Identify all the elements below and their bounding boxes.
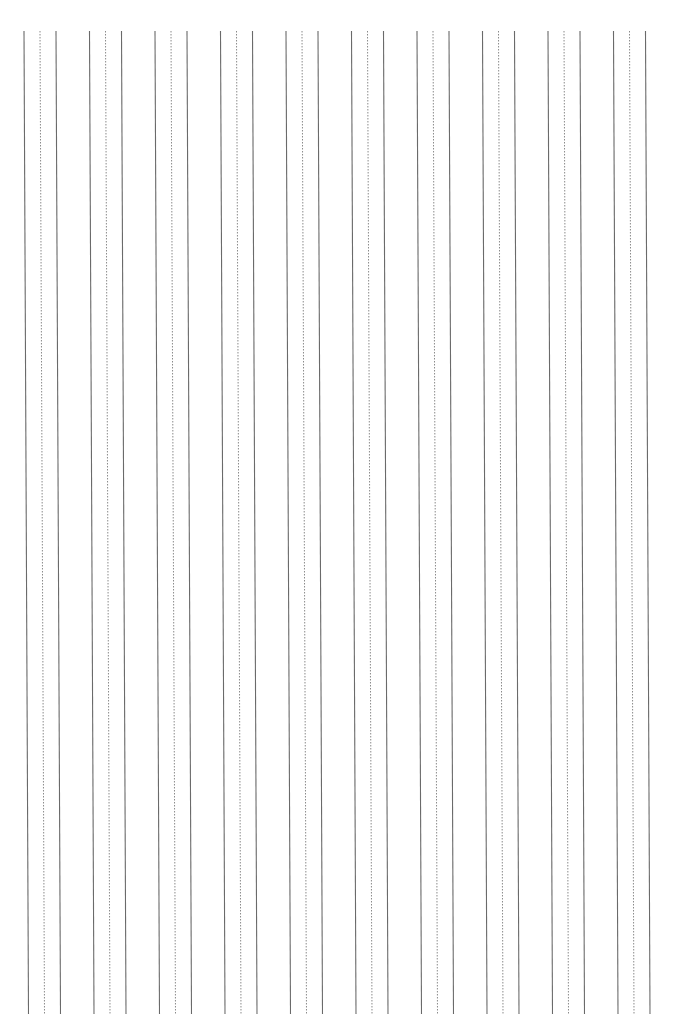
solid-guide-line <box>384 31 389 1014</box>
solid-guide-line <box>548 31 553 1014</box>
column-group <box>548 31 585 1014</box>
dotted-guide-line <box>499 31 504 1014</box>
dotted-guide-line <box>433 31 438 1014</box>
solid-guide-line <box>221 31 226 1014</box>
dotted-guide-line <box>106 31 111 1014</box>
dotted-guide-line <box>237 31 242 1014</box>
dotted-guide-line <box>564 31 569 1014</box>
solid-guide-line <box>483 31 488 1014</box>
dotted-guide-line <box>171 31 176 1014</box>
dotted-guide-line <box>40 31 45 1014</box>
solid-guide-line <box>646 31 651 1014</box>
lined-paper-sheet <box>0 0 677 1014</box>
column-group <box>155 31 192 1014</box>
column-group <box>286 31 323 1014</box>
column-group <box>24 31 61 1014</box>
dotted-guide-line <box>368 31 373 1014</box>
column-group <box>614 31 651 1014</box>
solid-guide-line <box>352 31 357 1014</box>
solid-guide-line <box>122 31 127 1014</box>
solid-guide-line <box>286 31 291 1014</box>
solid-guide-line <box>449 31 454 1014</box>
column-group <box>221 31 258 1014</box>
solid-guide-line <box>155 31 160 1014</box>
solid-guide-line <box>56 31 61 1014</box>
column-group <box>483 31 520 1014</box>
solid-guide-line <box>417 31 422 1014</box>
solid-guide-line <box>253 31 258 1014</box>
column-group <box>90 31 127 1014</box>
column-group <box>352 31 389 1014</box>
solid-guide-line <box>614 31 619 1014</box>
solid-guide-line <box>318 31 323 1014</box>
solid-guide-line <box>24 31 29 1014</box>
column-group <box>417 31 454 1014</box>
dotted-guide-line <box>630 31 635 1014</box>
dotted-guide-line <box>302 31 307 1014</box>
solid-guide-line <box>187 31 192 1014</box>
solid-guide-line <box>580 31 585 1014</box>
solid-guide-line <box>90 31 95 1014</box>
solid-guide-line <box>515 31 520 1014</box>
